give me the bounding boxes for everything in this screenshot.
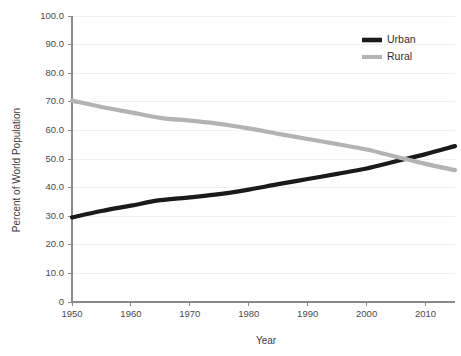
x-tick-label: 1980 <box>238 308 259 319</box>
y-axis-title: Percent of World Population <box>11 108 22 232</box>
y-tick-label: 10.0 <box>46 267 65 278</box>
y-tick-label: 70.0 <box>46 95 65 106</box>
x-tick-label: 1990 <box>297 308 318 319</box>
y-tick-label: 80.0 <box>46 67 65 78</box>
x-tick-label: 1960 <box>120 308 141 319</box>
legend-label-rural: Rural <box>387 50 412 62</box>
chart-canvas: 010.020.030.040.050.060.070.080.090.0100… <box>0 0 461 356</box>
x-tick-label: 1970 <box>179 308 200 319</box>
x-axis-title: Year <box>256 335 277 346</box>
y-tick-label: 90.0 <box>46 38 65 49</box>
x-tick-label: 2000 <box>356 308 377 319</box>
line-chart-figure: 010.020.030.040.050.060.070.080.090.0100… <box>0 0 461 356</box>
y-tick-label: 20.0 <box>46 238 65 249</box>
x-tick-label: 1950 <box>61 308 82 319</box>
y-tick-label: 0 <box>59 296 64 307</box>
x-tick-label: 2010 <box>415 308 436 319</box>
legend-label-urban: Urban <box>387 33 416 45</box>
y-tick-label: 30.0 <box>46 210 65 221</box>
y-tick-label: 60.0 <box>46 124 65 135</box>
y-tick-label: 50.0 <box>46 153 65 164</box>
y-tick-label: 40.0 <box>46 181 65 192</box>
y-tick-label: 100.0 <box>40 10 64 21</box>
